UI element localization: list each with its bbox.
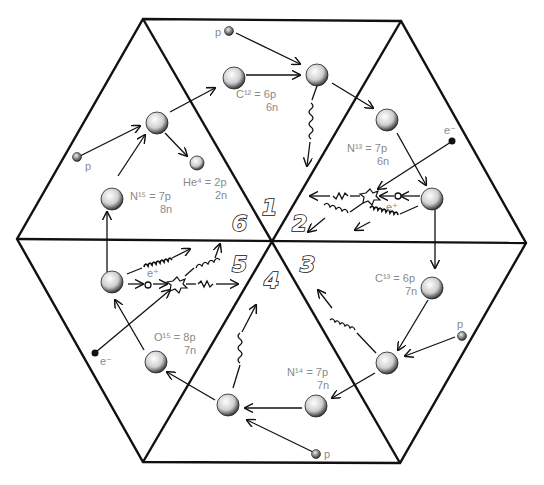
c13-neutrons: 7n: [405, 285, 417, 297]
c12-label: C¹² = 6p: [236, 88, 276, 100]
proton-icon-3: [458, 332, 467, 341]
c13-nucleus-icon: [421, 277, 443, 299]
o16-intermediate-nucleus-icon: [146, 112, 168, 134]
proton-icon-4: [312, 450, 321, 459]
c12-nucleus-icon: [223, 67, 245, 89]
proton-icon-6: [73, 153, 82, 162]
proton-label-6: p: [85, 160, 91, 172]
n13-intermediate-nucleus-icon: [306, 64, 328, 86]
n15-neutrons: 8n: [160, 203, 172, 215]
electron-icons: [92, 138, 456, 357]
electron-label-5: e⁻: [100, 355, 112, 367]
o15-neutrons: 7n: [184, 344, 196, 356]
annihilation-flash-icon-section-2: [360, 189, 380, 205]
positron-label-2: e⁺: [386, 201, 398, 213]
helium-nucleus-icon: [190, 156, 204, 170]
n13-nucleus-icon: [376, 109, 398, 131]
n14-neutrons: 7n: [317, 379, 329, 391]
proton-icon-1: [225, 27, 234, 36]
section-number-6: 6: [232, 211, 247, 236]
proton-label-4: p: [324, 448, 330, 460]
helium-label: He⁴ = 2p: [183, 176, 227, 188]
n14-intermediate-nucleus-icon: [376, 352, 398, 374]
n15-label: N¹⁵ = 7p: [130, 190, 171, 202]
annihilation-flash-icon-section-5: [167, 277, 187, 293]
hexagon-frame: [17, 19, 526, 463]
c13-label: C¹³ = 6p: [375, 272, 415, 284]
n15-nucleus-icon: [101, 188, 123, 210]
c12-neutrons: 6n: [266, 101, 278, 113]
section-number-1: 1: [262, 195, 277, 220]
proton-label-3: p: [457, 318, 463, 330]
n14-nucleus-icon: [305, 395, 327, 417]
section-number-4: 4: [263, 268, 279, 293]
section-number-5: 5: [232, 252, 247, 277]
cno-cycle-diagram: 1 2 3 4 5 6: [0, 0, 544, 485]
positron-label-5: e⁺: [147, 267, 159, 279]
o15-label: O¹⁵ = 8p: [154, 331, 196, 343]
proton-label-1: p: [215, 26, 221, 38]
section-number-3: 3: [300, 252, 315, 277]
c13-pre-nucleus-icon: [421, 188, 443, 210]
n13-neutrons: 6n: [377, 155, 389, 167]
o15-intermediate-nucleus-icon: [217, 394, 239, 416]
n14-label: N¹⁴ = 7p: [287, 366, 328, 378]
section-number-2: 2: [292, 211, 307, 236]
electron-label-2: e⁻: [444, 124, 456, 136]
o15-nucleus-icon: [145, 351, 167, 373]
helium-neutrons: 2n: [215, 189, 227, 201]
n15-pre-nucleus-icon: [101, 271, 123, 293]
n13-label: N¹³ = 7p: [347, 142, 387, 154]
